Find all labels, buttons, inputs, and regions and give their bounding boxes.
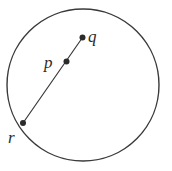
point-q-label: q [88, 27, 97, 46]
point-p-label: p [43, 53, 53, 72]
point-p-dot [64, 59, 70, 65]
point-r-dot [20, 120, 26, 126]
geometry-figure: q p r [0, 0, 172, 171]
circle-outline [7, 9, 159, 161]
figure-canvas: q p r [0, 0, 172, 171]
point-r-label: r [8, 128, 15, 147]
point-q-dot [80, 35, 86, 41]
chord-segment-r-to-q [23, 38, 83, 124]
